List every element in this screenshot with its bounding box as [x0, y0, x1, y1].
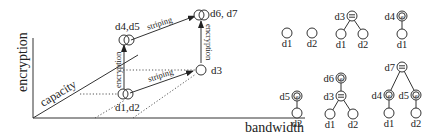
tree-node-label: d5 — [399, 90, 410, 101]
tree-node-label: d1 — [397, 39, 408, 50]
tree-node-d5: e — [292, 91, 302, 101]
tree-node-d3 — [336, 91, 346, 101]
tree-node-label: d2 — [358, 39, 369, 50]
tree-node-d2 — [348, 109, 358, 119]
composition-trees: d1d2d3d1d2ed4d1ed5d2ed6d3d1d2d7ed4ed5d1d… — [280, 11, 422, 130]
node-d1d2 — [118, 89, 133, 99]
tree-node-d2 — [292, 108, 302, 118]
tree-node-label: d7 — [385, 62, 396, 73]
tree-node-label: d1 — [384, 118, 395, 129]
node-label: d4,d5 — [115, 20, 140, 32]
encryption-symbol: e — [339, 75, 342, 83]
tree-node-d7 — [397, 62, 407, 72]
encryption-symbol: e — [400, 13, 403, 21]
tree-node-d2 — [307, 28, 317, 38]
edge-label-encryption: encryption — [204, 24, 214, 61]
tree-node-label: d2 — [348, 119, 359, 130]
edge-label-striping: striping — [147, 66, 176, 84]
tree-node-label: d1 — [336, 39, 347, 50]
node-label: d6, d7 — [210, 7, 238, 19]
node-label: d1,d2 — [115, 101, 140, 113]
tree-node-d5: e — [411, 90, 421, 100]
tree-node-label: d2 — [411, 118, 422, 129]
tree-node-d4: e — [384, 90, 394, 100]
tree-node-d2 — [358, 29, 368, 39]
tree-node-label: d5 — [280, 91, 291, 102]
capacity-label: capacity — [37, 77, 78, 110]
tree-node-label: d2 — [307, 38, 318, 49]
encryption-symbol: e — [414, 92, 417, 100]
y-axis-label: encryption — [15, 32, 30, 92]
tree-node-d4: e — [397, 11, 407, 21]
tree-node-label: d4 — [372, 90, 383, 101]
tree-node-d1 — [282, 28, 292, 38]
tree-node-label: d4 — [385, 11, 396, 22]
node-label: d3 — [211, 64, 223, 76]
tree-node-d1 — [397, 29, 407, 39]
tree-node-d1 — [336, 29, 346, 39]
tree-node-d6: e — [336, 73, 346, 83]
diagram-canvas: encryption bandwidth capacity encryption… — [0, 0, 440, 138]
node-d3 — [196, 65, 206, 75]
node-d6d7 — [194, 10, 209, 20]
tree-node-d2 — [411, 108, 421, 118]
tree-node-d1 — [384, 108, 394, 118]
tree-node-label: d1 — [282, 38, 293, 49]
encryption-symbol: e — [295, 93, 298, 101]
tree-node-label: d6 — [324, 73, 335, 84]
edge-label-encryption: encryption — [113, 51, 123, 88]
tree-node-label: d1 — [325, 119, 336, 130]
tree-node-label: d3 — [324, 91, 335, 102]
tree-node-d3 — [347, 11, 357, 21]
tree-node-label: d3 — [335, 11, 346, 22]
tree-node-d1 — [325, 109, 335, 119]
tree-node-label: d2 — [292, 118, 303, 129]
encryption-symbol: e — [387, 92, 390, 100]
